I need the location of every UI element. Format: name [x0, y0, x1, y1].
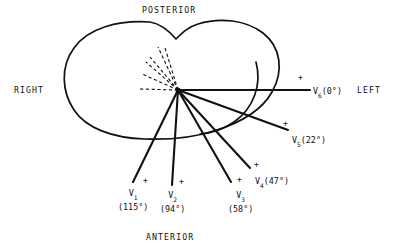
- polarity-plus-v3: +: [237, 176, 242, 184]
- lead-angle: (22°): [301, 135, 326, 145]
- electrical-center-point: [175, 87, 180, 92]
- orientation-label-anterior: ANTERIOR: [146, 232, 194, 242]
- positive-lead-vectors: [133, 90, 310, 185]
- negative-axis-v3: [150, 57, 178, 90]
- lead-angle: (115°): [118, 202, 148, 212]
- lead-angle-line: (115°): [118, 202, 148, 212]
- lead-vector-v4: [178, 90, 250, 168]
- lead-subscript: 6: [318, 92, 322, 99]
- orientation-label-right: RIGHT: [14, 85, 44, 95]
- polarity-plus-v4: +: [254, 161, 259, 169]
- lead-vector-v1: [133, 90, 178, 182]
- lead-angle-line: (58°): [228, 204, 253, 214]
- lead-label-v3: V3(58°): [228, 190, 253, 214]
- lead-angle: (58°): [228, 204, 253, 214]
- polarity-plus-v5: +: [283, 120, 288, 128]
- torso-outline: [64, 20, 279, 139]
- negative-axis-v2: [165, 48, 178, 90]
- lead-subscript: 1: [134, 194, 138, 201]
- negative-lead-axes: [139, 47, 178, 90]
- lead-subscript: 2: [173, 196, 177, 203]
- negative-axis-v1: [158, 47, 178, 90]
- orientation-label-left: LEFT: [357, 85, 381, 95]
- lead-angle: (0°): [322, 86, 342, 96]
- lead-subscript: 4: [260, 182, 264, 189]
- torso-cross-section-diagram: [0, 0, 399, 248]
- polarity-plus-v2: +: [179, 178, 184, 186]
- lead-label-v1: V1(115°): [118, 188, 148, 212]
- lead-label-v5: V5(22°): [292, 135, 326, 149]
- negative-axis-v5: [142, 74, 178, 90]
- lead-subscript: 3: [241, 196, 245, 203]
- lead-subscript: 5: [297, 141, 301, 148]
- polarity-plus-v1: +: [143, 177, 148, 185]
- negative-axis-v6: [139, 89, 178, 90]
- lead-label-v6: V6(0°): [313, 86, 342, 100]
- lead-vector-v3: [178, 90, 231, 182]
- lead-label-v4: V4(47°): [255, 176, 289, 190]
- lead-angle-line: (94°): [160, 204, 185, 214]
- figure-canvas: POSTERIOR ANTERIOR RIGHT LEFT +V1(115°)+…: [0, 0, 399, 248]
- orientation-label-posterior: POSTERIOR: [142, 5, 196, 15]
- lead-angle: (94°): [160, 204, 185, 214]
- lead-label-v2: V2(94°): [160, 190, 185, 214]
- polarity-plus-v6: +: [298, 74, 303, 82]
- lead-angle: (47°): [264, 176, 289, 186]
